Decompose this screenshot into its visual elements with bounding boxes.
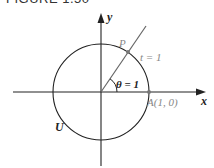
point-p-label: P [118,37,126,49]
point-a [147,90,151,94]
unit-circle-diagram: y x P t = 1 θ = 1 A(1, 0) U [0,0,214,168]
arc-length-label: t = 1 [140,51,161,63]
y-axis-label: y [105,10,113,24]
y-axis-arrow-icon [98,13,105,23]
x-axis-label: x [200,94,207,108]
point-a-label: A(1, 0) [146,96,178,109]
circle-label: U [55,120,65,134]
angle-label: θ = 1 [116,78,139,90]
point-p [126,50,130,54]
